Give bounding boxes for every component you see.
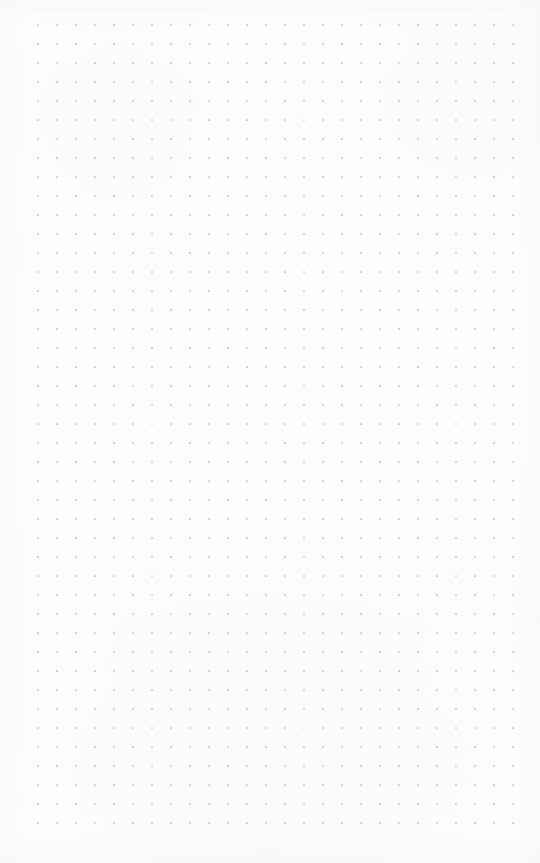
grid-dot [341,518,343,520]
grid-dot [227,803,229,805]
grid-dot [474,651,476,653]
grid-dot [170,461,172,463]
grid-dot [132,24,134,26]
grid-dot [56,613,58,615]
grid-dot [341,252,343,254]
grid-dot [284,708,286,710]
grid-dot [436,537,438,539]
grid-dot [474,708,476,710]
grid-dot [189,632,191,634]
grid-dot [379,176,381,178]
grid-dot [512,423,514,425]
grid-dot [379,309,381,311]
paper-edge-shading [0,0,540,863]
grid-dot [265,689,267,691]
grid-dot [227,518,229,520]
grid-dot [379,803,381,805]
grid-dot [379,727,381,729]
grid-dot [56,385,58,387]
grid-dot [455,575,457,577]
grid-dot [132,81,134,83]
grid-dot [322,233,324,235]
grid-dot [151,366,153,368]
grid-dot [170,233,172,235]
grid-dot [379,233,381,235]
grid-dot [322,138,324,140]
grid-dot [151,233,153,235]
grid-dot [75,423,77,425]
grid-dot [303,746,305,748]
grid-dot [56,309,58,311]
grid-dot [303,233,305,235]
grid-dot [246,594,248,596]
grid-dot [170,632,172,634]
grid-dot [493,594,495,596]
grid-dot [132,499,134,501]
grid-dot [189,81,191,83]
grid-dot [303,81,305,83]
grid-dot [455,24,457,26]
grid-dot [398,670,400,672]
grid-dot [379,651,381,653]
grid-dot [208,176,210,178]
grid-dot [322,214,324,216]
grid-dot [379,556,381,558]
grid-dot [132,309,134,311]
grid-dot [455,62,457,64]
grid-dot [493,176,495,178]
grid-dot [455,461,457,463]
grid-dot [208,423,210,425]
grid-dot [75,594,77,596]
grid-dot [132,43,134,45]
grid-dot [132,271,134,273]
grid-dot [151,746,153,748]
grid-dot [341,43,343,45]
grid-dot [151,176,153,178]
grid-dot [151,290,153,292]
grid-dot [189,727,191,729]
grid-dot [246,195,248,197]
grid-dot [341,499,343,501]
grid-dot [398,556,400,558]
grid-dot [170,271,172,273]
grid-dot [151,632,153,634]
grid-dot [512,271,514,273]
grid-dot [360,271,362,273]
grid-dot [132,632,134,634]
grid-dot [151,43,153,45]
grid-dot [322,461,324,463]
grid-dot [417,822,419,824]
grid-dot [227,290,229,292]
grid-dot [170,670,172,672]
grid-dot [170,195,172,197]
grid-dot [379,822,381,824]
grid-dot [94,176,96,178]
grid-dot [436,822,438,824]
grid-dot [303,385,305,387]
grid-dot [113,100,115,102]
grid-dot [56,689,58,691]
grid-dot [417,461,419,463]
grid-dot [170,822,172,824]
grid-dot [75,575,77,577]
grid-dot [208,727,210,729]
grid-dot [151,499,153,501]
grid-dot [284,100,286,102]
grid-dot [170,594,172,596]
grid-dot [398,366,400,368]
grid-dot [132,822,134,824]
grid-dot [75,176,77,178]
grid-dot [132,537,134,539]
grid-dot [75,670,77,672]
grid-dot [436,784,438,786]
grid-dot [303,594,305,596]
grid-dot [322,480,324,482]
grid-dot [512,290,514,292]
grid-dot [474,461,476,463]
grid-dot [303,784,305,786]
grid-dot [189,404,191,406]
grid-dot [246,100,248,102]
grid-dot [151,480,153,482]
grid-dot [113,43,115,45]
grid-dot [455,594,457,596]
